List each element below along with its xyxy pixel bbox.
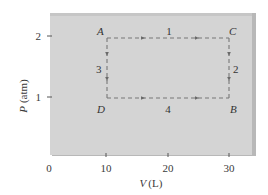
- x-tick-label-10: 10: [101, 162, 113, 174]
- segment-label-1: 1: [166, 25, 172, 37]
- y-axis-label: P(atm): [17, 79, 30, 114]
- y-tick-label-2: 2: [36, 30, 42, 42]
- x-axis-var: V: [140, 177, 148, 189]
- y-axis-var: P: [17, 106, 29, 114]
- y-tick-label-1: 1: [36, 91, 42, 103]
- y-axis-unit: (atm): [17, 79, 30, 103]
- x-axis-label: V(L): [140, 177, 163, 190]
- segment-label-4: 4: [165, 103, 171, 115]
- plot-panel: [50, 13, 252, 155]
- x-tick-label-30: 30: [224, 162, 236, 174]
- point-label-B: B: [230, 103, 237, 115]
- segment-label-2: 2: [233, 63, 239, 75]
- point-label-D: D: [96, 103, 105, 115]
- plot-panel-top-edge: [50, 13, 252, 16]
- point-label-C: C: [229, 25, 237, 37]
- x-tick-label-0: 0: [46, 162, 52, 174]
- segment-label-3: 3: [96, 63, 102, 75]
- x-tick-label-20: 20: [163, 162, 175, 174]
- point-label-A: A: [96, 25, 104, 37]
- x-axis-unit: (L): [148, 177, 162, 190]
- pv-diagram: 2 1 P(atm) 0 10 20 30 V(L) A C D B 1 2 3…: [0, 0, 268, 195]
